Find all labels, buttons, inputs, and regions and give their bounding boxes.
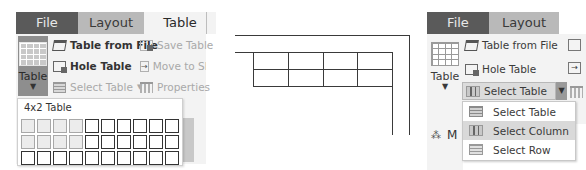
partial-label: M: [447, 128, 457, 142]
save-table-icon[interactable]: [568, 39, 581, 51]
table-size-label: 4x2 Table: [18, 99, 182, 117]
grid-cell[interactable]: [53, 119, 67, 133]
grid-cell[interactable]: [133, 119, 147, 133]
properties-icon[interactable]: [570, 86, 583, 98]
tab-layout[interactable]: Layout: [78, 12, 144, 34]
grid-cell[interactable]: [21, 151, 35, 165]
menu-item-select-row[interactable]: Select Row: [463, 140, 575, 159]
grid-cell[interactable]: [149, 135, 163, 149]
side-panel: ⁂ M: [427, 124, 463, 170]
hole-table-button[interactable]: Hole Table: [53, 57, 132, 75]
hole-table-button[interactable]: Hole Table: [465, 60, 536, 78]
table-size-picker: 4x2 Table: [17, 98, 183, 166]
grid-cell[interactable]: [101, 151, 115, 165]
select-table-icon: [469, 106, 483, 117]
select-dropdown-menu: Select Table Select Column Select Row: [462, 101, 576, 161]
tab-layout[interactable]: Layout: [489, 12, 559, 34]
hole-table-icon: [53, 61, 66, 72]
tree-icon: ⁂: [431, 130, 441, 141]
grid-cell[interactable]: [101, 119, 115, 133]
save-table-icon: [140, 40, 153, 51]
grid-cell[interactable]: [85, 151, 99, 165]
grid-cell[interactable]: [53, 151, 67, 165]
table-column-line: [392, 52, 393, 86]
tab-divider: [206, 12, 207, 34]
grid-cell[interactable]: [85, 119, 99, 133]
grid-cell[interactable]: [133, 135, 147, 149]
table-row-line: [253, 86, 392, 87]
grid-cell[interactable]: [165, 135, 179, 149]
select-row-icon: [469, 144, 483, 155]
grid-cell[interactable]: [69, 135, 83, 149]
tab-file[interactable]: File: [427, 12, 489, 34]
grid-cell[interactable]: [149, 151, 163, 165]
menu-item-select-column[interactable]: Select Column: [463, 121, 575, 140]
left-tab-bar: File Layout Table: [16, 12, 216, 34]
sheet-border-right: [409, 35, 410, 135]
right-tab-bar: File Layout: [427, 12, 559, 34]
grid-cell[interactable]: [149, 119, 163, 133]
select-column-icon: [469, 125, 483, 136]
insert-table-button[interactable]: Table ▼: [430, 36, 460, 96]
move-to-sheet-button[interactable]: → Move to Sheet: [140, 57, 206, 75]
properties-icon: [140, 82, 153, 93]
sheet-border-top: [235, 35, 410, 36]
grid-cell[interactable]: [117, 119, 131, 133]
select-table-icon: [53, 82, 66, 93]
grid-cell[interactable]: [21, 135, 35, 149]
grid-cell[interactable]: [69, 151, 83, 165]
grid-cell[interactable]: [165, 151, 179, 165]
select-table-button[interactable]: Select Table ▼: [53, 78, 142, 96]
save-table-button[interactable]: Save Table: [140, 36, 213, 54]
insert-table-button[interactable]: Table ▼: [18, 36, 48, 96]
drawn-table: [253, 52, 392, 86]
table-size-grid[interactable]: [18, 117, 182, 167]
table-grid-icon: [19, 42, 47, 66]
table-from-file-icon: [52, 40, 67, 51]
table-row-line: [253, 69, 392, 70]
grid-cell[interactable]: [101, 135, 115, 149]
grid-cell[interactable]: [117, 151, 131, 165]
select-table-dropdown-arrow[interactable]: ▼: [556, 82, 567, 100]
grid-cell[interactable]: [117, 135, 131, 149]
chevron-down-icon: ▼: [442, 83, 448, 91]
select-table-icon: [466, 86, 480, 97]
grid-cell[interactable]: [21, 119, 35, 133]
hole-table-icon: [465, 64, 478, 75]
grid-cell[interactable]: [37, 119, 51, 133]
grid-cell[interactable]: [85, 135, 99, 149]
select-table-split-button[interactable]: Select Table: [462, 82, 556, 100]
grid-cell[interactable]: [53, 135, 67, 149]
grid-cell[interactable]: [37, 151, 51, 165]
tab-file[interactable]: File: [16, 12, 78, 34]
grid-cell[interactable]: [165, 119, 179, 133]
grid-cell[interactable]: [37, 135, 51, 149]
table-from-file-icon: [464, 40, 479, 51]
grid-cell[interactable]: [69, 119, 83, 133]
table-grid-icon: [431, 42, 459, 66]
menu-item-select-table[interactable]: Select Table: [463, 102, 575, 121]
table-from-file-button[interactable]: Table from File: [465, 36, 558, 54]
move-to-sheet-icon: →: [140, 61, 149, 72]
chevron-down-icon: ▼: [30, 83, 36, 91]
properties-button[interactable]: Properties: [140, 78, 210, 96]
table-row-line: [253, 52, 392, 53]
move-to-sheet-icon[interactable]: →: [568, 62, 581, 74]
grid-cell[interactable]: [133, 151, 147, 165]
